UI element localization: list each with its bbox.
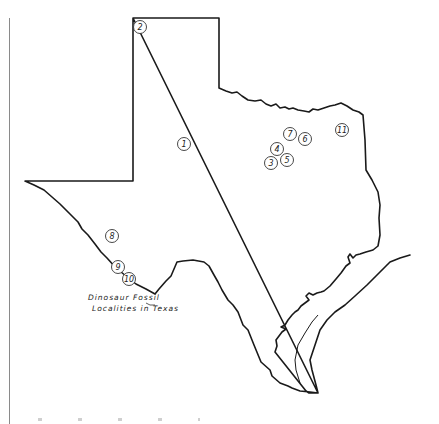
svg-text:8: 8: [109, 232, 114, 241]
svg-text:2: 2: [137, 23, 142, 32]
locality-marker-1: 1: [178, 138, 191, 151]
locality-marker-9: 9: [112, 261, 125, 274]
map-title-line-1: Dinosaur Fossil: [88, 293, 160, 302]
map-title-line-2: Localities in Texas: [92, 304, 179, 313]
texas-map: 1 2 3 4 5 6 7 8 9 10 11 Dinosaur Fossil …: [0, 0, 439, 424]
barrier-island-outline: [295, 315, 318, 383]
locality-marker-11: 11: [336, 124, 349, 137]
svg-text:11: 11: [337, 126, 347, 135]
locality-marker-4: 4: [271, 143, 284, 156]
map-title: Dinosaur Fossil Localities in Texas: [88, 293, 179, 313]
svg-text:4: 4: [274, 145, 279, 154]
locality-marker-10: 10: [123, 273, 136, 286]
locality-marker-5: 5: [281, 154, 294, 167]
svg-text:10: 10: [124, 275, 134, 284]
locality-marker-7: 7: [284, 128, 297, 141]
svg-text:9: 9: [115, 263, 120, 272]
svg-text:5: 5: [284, 156, 289, 165]
cropped-footer-text: [20, 418, 200, 421]
locality-marker-6: 6: [299, 133, 312, 146]
locality-marker-3: 3: [265, 157, 278, 170]
svg-text:6: 6: [302, 135, 307, 144]
svg-text:3: 3: [268, 159, 273, 168]
locality-marker-2: 2: [134, 21, 147, 34]
locality-markers: 1 2 3 4 5 6 7 8 9 10 11: [106, 21, 349, 286]
locality-marker-8: 8: [106, 230, 119, 243]
svg-text:1: 1: [181, 140, 186, 149]
texas-state-outline: [25, 18, 410, 393]
